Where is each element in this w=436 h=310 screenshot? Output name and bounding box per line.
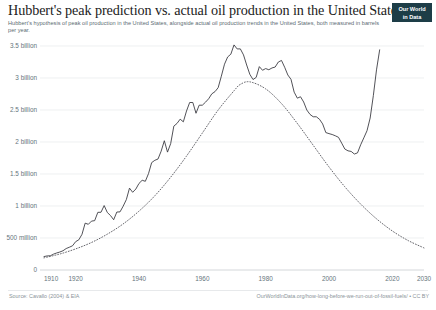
- y-axis-tick-label: 3.5 billion: [10, 42, 37, 49]
- y-axis-tick-labels: 0500 million1 billion1.5 billion2 billio…: [6, 42, 37, 273]
- our-world-in-data-logo[interactable]: Our World in Data: [392, 3, 432, 22]
- x-axis-tick-label: 2020: [385, 275, 400, 282]
- license-text[interactable]: OurWorldInData.org/how-long-before-we-ru…: [256, 293, 429, 299]
- page-title: Hubbert's peak prediction vs. actual oil…: [8, 3, 388, 18]
- logo-line-2: in Data: [392, 13, 432, 21]
- chart-subtitle: Hubbert's hypothesis of peak oil product…: [8, 20, 382, 34]
- y-axis-tick-label: 2.5 billion: [10, 106, 37, 113]
- grid-lines: [40, 46, 424, 270]
- chart-footer: Source: Cavallo (2004) & EIA OurWorldInD…: [0, 293, 436, 303]
- chart-header: Hubbert's peak prediction vs. actual oil…: [8, 3, 388, 34]
- series-actual-production-line: [44, 45, 380, 257]
- chart-plot-area: 0500 million1 billion1.5 billion2 billio…: [0, 36, 436, 284]
- x-axis-tick-label: 1920: [69, 275, 84, 282]
- y-axis-tick-label: 2 billion: [15, 138, 37, 145]
- series-hubbert-prediction-line: [44, 82, 424, 258]
- x-axis-tick-labels: 19101920194019601980200020202030: [44, 275, 432, 282]
- chart-card: Hubbert's peak prediction vs. actual oil…: [0, 0, 436, 310]
- y-axis-tick-label: 1 billion: [15, 202, 37, 209]
- y-axis-tick-label: 3 billion: [15, 74, 37, 81]
- line-chart-svg: 0500 million1 billion1.5 billion2 billio…: [0, 36, 436, 284]
- y-axis-tick-label: 1.5 billion: [10, 170, 37, 177]
- x-axis-tick-label: 2030: [417, 275, 432, 282]
- x-axis-tick-label: 1980: [259, 275, 274, 282]
- x-axis-tick-label: 1960: [195, 275, 210, 282]
- y-axis-tick-label: 0: [33, 266, 37, 273]
- source-text: Source: Cavallo (2004) & EIA: [9, 293, 79, 299]
- x-axis-tick-label: 1940: [132, 275, 147, 282]
- logo-line-1: Our World: [392, 5, 432, 13]
- x-axis-tick-label: 1910: [44, 275, 59, 282]
- footer-divider: [8, 290, 428, 291]
- y-axis-tick-label: 500 million: [6, 234, 37, 241]
- x-axis-tick-label: 2000: [322, 275, 337, 282]
